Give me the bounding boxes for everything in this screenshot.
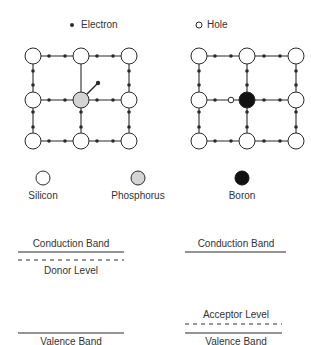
phosphorus-atom-icon [73, 92, 89, 108]
hole-icon [228, 97, 234, 103]
electron-legend-label: Electron [81, 19, 118, 31]
donor-level-label: Donor Level [44, 265, 98, 277]
p-type-atoms [191, 48, 304, 149]
silicon-legend-icon [36, 171, 50, 185]
n-valence-band-label: Valence Band [40, 336, 102, 345]
boron-atom-icon [239, 92, 255, 108]
extra-electron-icon [96, 81, 100, 85]
hole-legend-label: Hole [207, 19, 228, 31]
acceptor-level-label: Acceptor Level [203, 309, 269, 321]
p-conduction-band-label: Conduction Band [198, 238, 275, 250]
semiconductor-doping-diagram [0, 0, 311, 345]
electron-legend-icon [70, 23, 74, 27]
phosphorus-legend-icon [131, 171, 145, 185]
silicon-legend-label: Silicon [28, 190, 57, 202]
p-valence-band-label: Valence Band [205, 336, 267, 345]
n-conduction-band-label: Conduction Band [33, 238, 110, 250]
phosphorus-legend-label: Phosphorus [111, 190, 164, 202]
n-type-atoms [25, 48, 137, 149]
boron-legend-label: Boron [229, 190, 256, 202]
boron-legend-icon [235, 171, 249, 185]
hole-legend-icon [196, 22, 202, 28]
